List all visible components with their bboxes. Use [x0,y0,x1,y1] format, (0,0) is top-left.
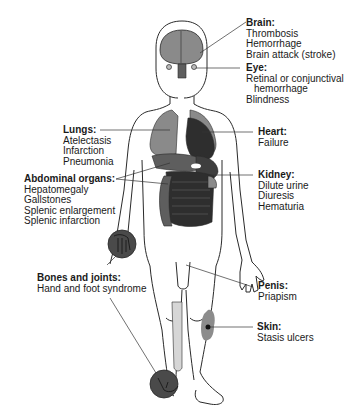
hand-syndrome-circle [108,230,136,258]
brain-label: Brain: Thrombosis Hemorrhage Brain attac… [246,18,335,60]
brain-illustration [160,30,203,78]
penis-label: Penis: Priapism [258,281,297,302]
eye-label: Eye: Retinal or conjunctival hemorrhage … [246,63,344,105]
skin-label: Skin: Stasis ulcers [257,322,314,343]
skin-ulcer-illustration [201,310,215,341]
lungs-label: Lungs: Atelectasis Infarction Pneumonia [63,125,114,167]
heart-label: Heart: Failure [258,127,289,148]
foot-syndrome-circle [150,370,178,398]
tibia-illustration [172,302,182,371]
bones-joints-label: Bones and joints: Hand and foot syndrome [37,273,147,294]
abdominal-organs-label: Abdominal organs: Hepatomegaly Gallstone… [24,174,115,227]
organs-illustration [150,110,218,227]
kidney-label: Kidney: Dilute urine Diuresis Hematuria [258,170,309,212]
